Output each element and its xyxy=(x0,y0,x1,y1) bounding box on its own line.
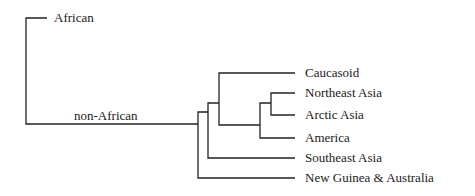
node-caucasoid xyxy=(219,73,295,125)
leaf-arctic-asia: Arctic Asia xyxy=(305,108,364,121)
node-southeast-asia xyxy=(208,103,295,158)
leaf-new-guinea-australia: New Guinea & Australia xyxy=(305,171,434,184)
node-northeast-arctic xyxy=(271,93,295,115)
node-ng-australia xyxy=(198,112,295,178)
label-african: African xyxy=(54,11,94,24)
node-america xyxy=(260,103,295,138)
tree-lines xyxy=(0,0,475,196)
leaf-caucasoid: Caucasoid xyxy=(305,66,359,79)
label-non-african: non-African xyxy=(74,109,138,122)
leaf-northeast-asia: Northeast Asia xyxy=(305,86,382,99)
leaf-america: America xyxy=(305,131,350,144)
leaf-southeast-asia: Southeast Asia xyxy=(305,151,382,164)
